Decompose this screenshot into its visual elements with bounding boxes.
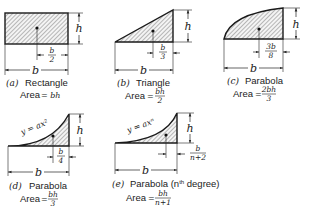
centroid-offset-numerator: b [59,147,64,156]
base-label: b [250,62,257,75]
figure-letter: (e) [112,179,125,189]
curve-equation: y = ax² [18,118,49,138]
triangle-shape [115,10,173,42]
area-formula-numerator: bh [48,190,58,199]
centroid-offset-denominator: 8 [269,51,274,60]
centroid-offset-numerator: b [196,144,201,153]
area-label: Area [20,89,41,100]
area-formula-prefix: = [41,195,48,204]
height-label: h [187,122,194,135]
area-formula-denominator: 3 [51,199,56,208]
area-label: Area [125,90,146,101]
figure-parabola-d: y = ax² h b 4 b (d) Parabola Area = bh 3 [8,114,84,208]
height-label: h [293,18,300,31]
area-formula-denominator: n+1 [155,198,171,207]
area-label: Area [233,88,254,99]
figure-name: Parabola (nth degree) [130,178,220,189]
area-centroid-diagram: h b 2 b (a) Rectangle Area = bh h b 3 [0,0,315,214]
height-label: h [185,20,192,33]
height-label: h [77,124,84,137]
height-label: h [76,22,83,35]
figure-parabola-e: y = axⁿ h b n+2 b (e) Parabola (nth degr… [112,113,220,207]
area-label: Area [126,192,147,203]
parabola-shape [224,8,283,39]
area-formula-denominator: 3 [267,94,272,103]
base-label: b [142,164,149,177]
area-formula-prefix: = [147,92,154,101]
centroid-offset-numerator: 3b [266,42,276,51]
area-formula: = bh [41,91,61,100]
figure-triangle: h b 3 b (b) Triangle Area = bh 2 [115,10,192,105]
base-label: b [32,64,39,77]
area-formula-numerator: 2bh [261,85,277,94]
figure-letter: (b) [117,78,130,88]
centroid-offset-denominator: 3 [161,52,166,61]
area-formula-numerator: bh [155,87,165,96]
figure-rectangle: h b 2 b (a) Rectangle Area = bh [5,13,83,100]
figure-letter: (d) [9,181,22,191]
area-label: Area [20,193,41,204]
area-formula-prefix: = [255,90,262,99]
base-label: b [140,64,147,77]
figure-name: Rectangle [25,77,68,88]
area-formula-prefix: = [148,194,155,203]
area-formula-denominator: 2 [157,96,163,105]
centroid-offset-numerator: b [161,43,166,52]
figure-parabola-c: h 3b 8 b (c) Parabola Area = 2bh 3 [224,8,300,103]
figure-letter: (a) [6,78,19,88]
centroid-offset-numerator: b [50,46,55,55]
figure-letter: (c) [227,76,240,86]
figure-name: Triangle [136,77,170,88]
centroid-offset-denominator: n+2 [190,153,206,162]
base-label: b [35,166,42,179]
centroid-offset-denominator: 2 [49,55,55,64]
centroid-offset-denominator: 4 [58,156,64,165]
curve-equation: y = axⁿ [125,117,156,136]
area-formula-numerator: bh [158,189,168,198]
